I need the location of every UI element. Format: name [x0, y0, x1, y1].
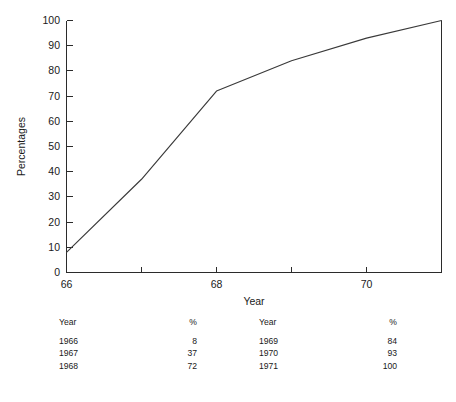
- axis-left-bottom: [67, 21, 442, 273]
- ytick-label-60: 60: [48, 115, 60, 127]
- chart-area: 100 90 80 70 60 50 40 30 20 10 0 Percent…: [0, 0, 456, 316]
- ytick-label-70: 70: [48, 90, 60, 102]
- xtick-label-70: 70: [361, 278, 373, 290]
- x-axis-tick-labels: 66 68 70: [61, 278, 373, 290]
- cell-gap: [197, 335, 259, 347]
- cell-pct-left: 37: [145, 347, 197, 359]
- table-header-row: Year % Year %: [59, 316, 397, 335]
- table-head: Year % Year %: [59, 316, 397, 335]
- data-series-line: [67, 21, 442, 253]
- cell-year-left: 1968: [59, 360, 145, 372]
- header-year-right: Year: [259, 316, 345, 335]
- y-axis-ticks: [67, 21, 73, 273]
- ytick-label-90: 90: [48, 39, 60, 51]
- ytick-label-0: 0: [54, 266, 60, 278]
- figure-caption: [18, 396, 448, 402]
- axis-frame: [67, 21, 442, 273]
- y-axis-tick-labels: 100 90 80 70 60 50 40 30 20 10 0: [42, 14, 60, 278]
- cell-pct-left: 72: [145, 360, 197, 372]
- cell-year-right: 1969: [259, 335, 345, 347]
- cell-pct-left: 8: [145, 335, 197, 347]
- cell-year-right: 1971: [259, 360, 345, 372]
- ytick-label-30: 30: [48, 190, 60, 202]
- ytick-label-40: 40: [48, 165, 60, 177]
- cell-year-left: 1967: [59, 347, 145, 359]
- data-table: Year % Year % 19668196984196737197093196…: [59, 316, 397, 372]
- ytick-label-80: 80: [48, 64, 60, 76]
- header-gap: [197, 316, 259, 335]
- x-axis-title: Year: [243, 295, 265, 307]
- figure: 100 90 80 70 60 50 40 30 20 10 0 Percent…: [0, 0, 456, 402]
- cell-pct-right: 93: [345, 347, 397, 359]
- line-chart: 100 90 80 70 60 50 40 30 20 10 0 Percent…: [0, 0, 456, 316]
- cell-year-left: 1966: [59, 335, 145, 347]
- xtick-label-68: 68: [211, 278, 223, 290]
- x-axis-ticks: [67, 267, 442, 273]
- cell-pct-right: 84: [345, 335, 397, 347]
- ytick-label-50: 50: [48, 140, 60, 152]
- table-body: 196681969841967371970931968721971100: [59, 335, 397, 372]
- table-row: 196737197093: [59, 347, 397, 359]
- header-year-left: Year: [59, 316, 145, 335]
- cell-pct-right: 100: [345, 360, 397, 372]
- xtick-label-66: 66: [61, 278, 73, 290]
- ytick-label-100: 100: [42, 14, 60, 26]
- table-row: 19668196984: [59, 335, 397, 347]
- cell-gap: [197, 347, 259, 359]
- header-pct-left: %: [145, 316, 197, 335]
- table-row: 1968721971100: [59, 360, 397, 372]
- y-axis-title: Percentages: [15, 117, 27, 176]
- header-pct-right: %: [345, 316, 397, 335]
- data-table-wrap: Year % Year % 19668196984196737197093196…: [0, 316, 456, 372]
- ytick-label-20: 20: [48, 216, 60, 228]
- ytick-label-10: 10: [48, 241, 60, 253]
- cell-gap: [197, 360, 259, 372]
- cell-year-right: 1970: [259, 347, 345, 359]
